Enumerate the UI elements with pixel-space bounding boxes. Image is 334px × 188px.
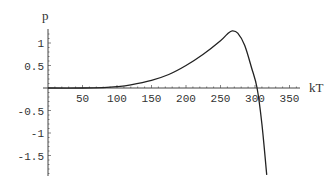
x-axis-label: kT [309, 80, 324, 95]
x-tick-label: 300 [245, 93, 265, 105]
x-tick-label: 350 [280, 93, 300, 105]
y-tick-label: -1.5 [18, 151, 44, 163]
y-axis-label: p [42, 8, 49, 23]
y-tick-label: 0.5 [24, 61, 44, 73]
x-tick-label: 100 [107, 93, 127, 105]
line-chart: 10.5-0.5-1-1.5 50100150200250300350 p kT [0, 0, 334, 188]
y-tick-label: 1 [37, 38, 44, 50]
y-axis-ticks: 10.5-0.5-1-1.5 [18, 34, 51, 174]
y-tick-label: -1 [31, 128, 45, 140]
x-tick-label: 200 [176, 93, 196, 105]
x-tick-label: 50 [76, 93, 89, 105]
x-tick-label: 150 [142, 93, 162, 105]
x-tick-label: 250 [211, 93, 231, 105]
y-tick-label: -0.5 [18, 106, 44, 118]
